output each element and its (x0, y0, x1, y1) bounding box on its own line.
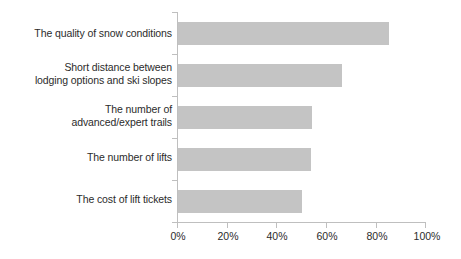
value-tick-label-100: 100% (414, 230, 441, 242)
bar-2 (178, 106, 312, 129)
value-tick-20 (227, 223, 228, 228)
bar-3 (178, 148, 311, 171)
category-label-1: Short distance between lodging options a… (35, 61, 172, 86)
value-axis-line (177, 222, 426, 223)
bar-4 (178, 190, 302, 213)
category-tick-4 (172, 180, 177, 181)
bar-1 (178, 64, 342, 87)
category-label-3: The number of lifts (87, 151, 172, 164)
value-tick-80 (376, 223, 377, 228)
value-tick-label-0: 0% (170, 230, 185, 242)
value-tick-0 (177, 223, 178, 228)
value-tick-label-20: 20% (217, 230, 238, 242)
value-tick-60 (326, 223, 327, 228)
value-tick-100 (425, 223, 426, 228)
value-tick-label-80: 80% (366, 230, 387, 242)
category-tick-3 (172, 138, 177, 139)
category-tick-1 (172, 54, 177, 55)
category-label-0: The quality of snow conditions (34, 27, 172, 40)
bar-chart: The quality of snow conditions Short dis… (0, 0, 461, 259)
category-label-4: The cost of lift tickets (76, 193, 172, 206)
value-tick-label-40: 40% (266, 230, 287, 242)
value-tick-label-60: 60% (316, 230, 337, 242)
category-tick-0 (172, 12, 177, 13)
value-tick-40 (276, 223, 277, 228)
category-label-2: The number of advanced/expert trails (71, 103, 172, 128)
bar-0 (178, 22, 389, 45)
category-tick-2 (172, 96, 177, 97)
